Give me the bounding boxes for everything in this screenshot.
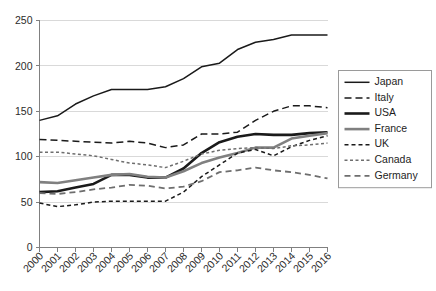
y-tick-label: 50 (21, 196, 33, 208)
legend-label-japan: Japan (375, 75, 404, 87)
y-tick-label: 150 (15, 105, 33, 117)
legend-label-italy: Italy (375, 91, 395, 103)
data-series (40, 35, 328, 207)
chart-canvas: 050100150200250 200020012002200320042005… (0, 0, 436, 291)
legend-label-uk: UK (375, 137, 390, 149)
chart-legend: JapanItalyUSAFranceUKCanadaGermany (339, 71, 432, 188)
line-chart: 050100150200250 200020012002200320042005… (0, 0, 436, 291)
legend-label-canada: Canada (375, 153, 412, 165)
y-tick-label: 250 (15, 14, 33, 26)
y-axis-tick-labels: 050100150200250 (15, 14, 40, 253)
legend-label-usa: USA (375, 106, 397, 118)
y-tick-label: 200 (15, 60, 33, 72)
x-tick-label: 2016 (308, 249, 333, 274)
legend-label-germany: Germany (375, 169, 419, 181)
x-axis-tick-labels: 2000200120022003200420052006200720082009… (20, 248, 333, 275)
gridlines (40, 21, 328, 203)
y-tick-label: 0 (27, 241, 33, 253)
legend-label-france: France (375, 122, 408, 134)
series-line-canada (40, 143, 328, 168)
series-line-france (40, 133, 328, 183)
y-tick-label: 100 (15, 150, 33, 162)
